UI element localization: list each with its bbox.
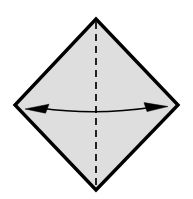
origami-fold-diagram: Origami fold step: valley fold square al…: [0, 0, 193, 199]
diagram-canvas: [0, 0, 193, 199]
